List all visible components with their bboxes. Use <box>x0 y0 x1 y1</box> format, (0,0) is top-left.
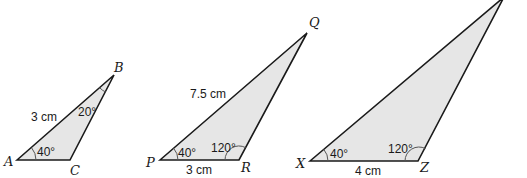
triangle-pqr: P Q R 7.5 cm 3 cm 40° 120° <box>145 15 320 177</box>
triangle-xyz: X Z 4 cm 40° 120° <box>295 0 504 178</box>
vertex-p-label: P <box>145 155 155 170</box>
vertex-c-label: C <box>70 163 80 178</box>
triangles-diagram: A B C 3 cm 40° 20° P Q R 7.5 cm 3 cm 40°… <box>0 0 527 178</box>
side-xz-label: 4 cm <box>355 164 381 178</box>
angle-a-label: 40° <box>37 145 55 159</box>
triangle-abc: A B C 3 cm 40° 20° <box>3 60 124 178</box>
angle-b-label: 20° <box>78 105 96 119</box>
vertex-b-label: B <box>113 60 124 75</box>
angle-r-label: 120° <box>211 141 236 155</box>
vertex-z-label: Z <box>419 160 430 175</box>
side-pq-label: 7.5 cm <box>190 87 226 101</box>
side-ab-label: 3 cm <box>31 110 57 124</box>
vertex-r-label: R <box>240 160 251 175</box>
angle-p-label: 40° <box>178 146 196 160</box>
vertex-x-label: X <box>295 156 306 171</box>
vertex-q-label: Q <box>309 15 320 30</box>
side-pr-label: 3 cm <box>186 163 212 177</box>
angle-z-label: 120° <box>388 142 413 156</box>
vertex-a-label: A <box>3 154 13 169</box>
triangle-xyz-shape <box>310 0 504 161</box>
angle-x-label: 40° <box>330 147 348 161</box>
